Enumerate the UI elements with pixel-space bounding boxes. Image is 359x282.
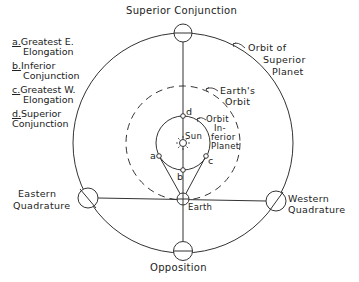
legend-item-d: d.Superior Conjunction: [12, 109, 80, 128]
superior-orbit-label-1: Orbit of: [248, 43, 286, 53]
western-quadrature-label-2: Quadrature: [288, 205, 345, 215]
greatest-west-elongation-line: [183, 156, 206, 199]
point-d-planet: [181, 114, 186, 119]
western-quadrature-label-1: Western: [288, 194, 329, 204]
inferior-orbit-label-4: Planet: [211, 142, 239, 151]
earth-orbit-label-2: Orbit: [225, 97, 250, 107]
eastern-quadrature-label-1: Eastern: [18, 189, 56, 199]
legend-item-c: c.Greatest W. Elongation: [12, 85, 80, 104]
point-a-planet: [157, 154, 162, 159]
point-b-label: b: [177, 172, 183, 182]
legend: a.Greatest E. Elongation b.Inferior Conj…: [12, 37, 80, 133]
superior-conjunction-label: Superior Conjunction: [126, 6, 237, 16]
point-d-label: d: [186, 107, 192, 117]
legend-item-b: b.Inferior Conjunction: [12, 61, 80, 80]
opposition-label: Opposition: [150, 263, 207, 273]
eastern-quadrature-label-2: Quadrature: [13, 201, 70, 211]
legend-item-a: a.Greatest E. Elongation: [12, 37, 80, 56]
superior-orbit-label-2: Superior: [263, 55, 306, 65]
sun-label: Sun: [185, 132, 202, 141]
point-a-label: a: [150, 151, 156, 161]
earth-label: Earth: [188, 203, 212, 212]
superior-orbit-label-3: Planet: [272, 67, 304, 77]
point-c-label: c: [208, 156, 214, 166]
earth-orbit-label-1: Earth's: [220, 86, 255, 96]
